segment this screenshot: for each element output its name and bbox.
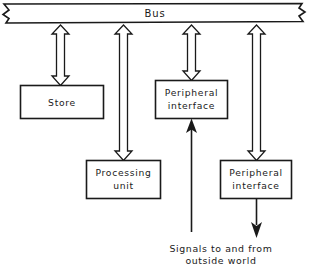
connector-bus-to-peripheral-interface-1: [183, 25, 200, 81]
block-peripheral-interface-1: Peripheral interface: [156, 81, 228, 119]
connector-bus-to-peripheral-interface-2: [248, 25, 265, 161]
block-store: Store: [21, 86, 104, 119]
processing-unit-label-line2: unit: [113, 180, 134, 191]
double-arrow-bus-processing-unit: [115, 25, 132, 161]
processing-unit-label-line1: Processing: [95, 167, 151, 178]
peripheral-interface-2-label-line1: Peripheral: [229, 167, 282, 178]
connector-outside-world-out: [251, 198, 262, 238]
double-arrow-bus-store: [52, 25, 69, 86]
outside-world-caption: Signals to and from outside world: [170, 243, 273, 266]
caption-line2: outside world: [185, 255, 256, 266]
connector-outside-world-in: [186, 119, 197, 233]
double-arrow-bus-peripheral-2: [248, 25, 265, 161]
peripheral-interface-1-label-line1: Peripheral: [165, 87, 218, 98]
connector-bus-to-store: [52, 25, 69, 86]
connector-bus-to-processing-unit: [115, 25, 132, 161]
peripheral-interface-2-label-line2: interface: [232, 180, 279, 191]
caption-line1: Signals to and from: [170, 243, 273, 254]
diagram-canvas: Bus Store: [0, 0, 311, 273]
peripheral-interface-1-label-line2: interface: [168, 100, 215, 111]
store-label: Store: [48, 97, 76, 108]
bus-bar: Bus: [3, 4, 305, 24]
block-processing-unit: Processing unit: [87, 161, 161, 199]
system-block-diagram: Bus Store: [0, 0, 311, 273]
block-peripheral-interface-2: Peripheral interface: [221, 161, 292, 199]
double-arrow-bus-peripheral-1: [183, 25, 200, 81]
bus-label: Bus: [144, 8, 165, 19]
